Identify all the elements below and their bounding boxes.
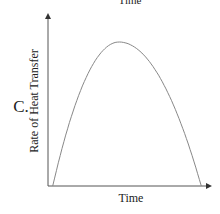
top-cut-label: Time [119, 0, 142, 6]
option-label: C. [13, 97, 29, 116]
y-axis-label: Rate of Heat Transfer [27, 49, 41, 153]
chart: Time Rate of Heat Transfer C. Time [0, 0, 220, 214]
x-axis-label: Time [119, 191, 144, 205]
series-line-rate [53, 42, 202, 186]
